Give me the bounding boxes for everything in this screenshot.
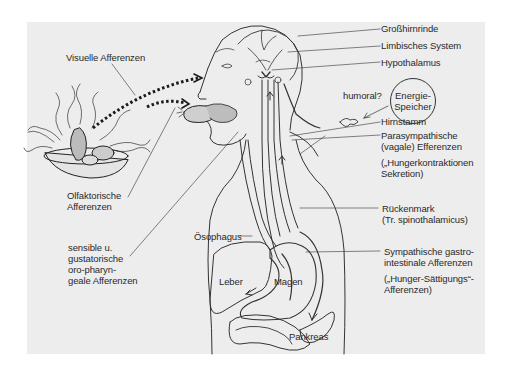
olfactory-afferent-dotted-arrow — [147, 101, 185, 107]
label-pancreas: Pankreas — [289, 331, 328, 342]
label-hunger-contractions: („Hungerkontraktionen Sekretion) — [381, 157, 473, 179]
label-oropharyngeal-afferents: sensible u. gustatorische oro-pharyn- ge… — [68, 242, 138, 286]
label-humoral: humoral? — [343, 90, 382, 101]
label-esophagus: Ösophagus — [194, 231, 242, 242]
label-hunger-satiety-afferents: („Hunger-Sättigungs“- Afferenzen) — [384, 273, 474, 295]
brain-illustration — [238, 30, 298, 85]
label-spinal-cord: Rückenmark (Tr. spinothalamicus) — [382, 203, 468, 225]
label-limbic-system: Limbisches System — [381, 40, 461, 51]
label-cerebral-cortex: Großhirnrinde — [381, 23, 438, 34]
head-outline — [198, 26, 302, 145]
label-liver: Leber — [219, 276, 243, 287]
label-olfactory-afferents: Olfaktorische Afferenzen — [67, 190, 121, 212]
label-sympathetic-afferents: Sympathische gastro- intestinale Afferen… — [384, 246, 474, 268]
food-bowl-illustration — [24, 84, 150, 178]
label-parasympathetic-efferents: Parasympathische (vagale) Efferenzen — [381, 130, 462, 152]
label-stomach: Magen — [274, 276, 303, 287]
label-brainstem: Hirnstamm — [381, 116, 426, 127]
label-visual-afferents: Visuelle Afferenzen — [66, 52, 145, 63]
label-hypothalamus: Hypothalamus — [381, 57, 441, 68]
